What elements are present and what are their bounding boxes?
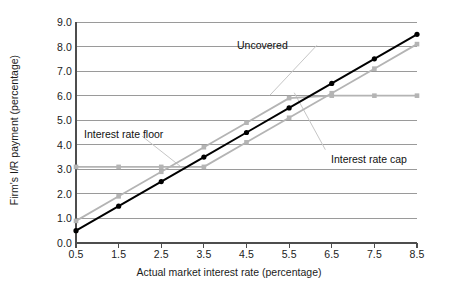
data-point-interest-rate-floor	[287, 115, 292, 120]
data-point-interest-rate-cap	[159, 169, 164, 174]
leader-line-floor	[142, 136, 180, 166]
leader-line-uncovered	[270, 45, 317, 95]
data-point-interest-rate-floor	[159, 165, 164, 170]
data-point-interest-rate-floor	[415, 42, 420, 47]
data-point-interest-rate-floor	[74, 165, 79, 170]
annotation-uncovered: Uncovered	[237, 40, 288, 51]
data-point-uncovered	[159, 179, 164, 184]
annotation-interest-rate-cap: Interest rate cap	[331, 154, 407, 165]
data-point-uncovered	[201, 154, 206, 159]
data-point-interest-rate-cap	[74, 219, 79, 224]
data-point-interest-rate-cap	[287, 96, 292, 101]
data-point-interest-rate-floor	[116, 165, 121, 170]
data-point-interest-rate-cap	[244, 120, 249, 125]
x-axis-title: Actual market interest rate (percentage)	[0, 266, 458, 278]
data-point-uncovered	[116, 204, 121, 209]
data-point-uncovered	[287, 105, 292, 110]
chart-plot	[0, 0, 458, 294]
data-point-interest-rate-floor	[372, 66, 377, 71]
data-point-uncovered	[244, 130, 249, 135]
data-point-interest-rate-cap	[415, 93, 420, 98]
series-line-interest-rate-floor	[76, 44, 417, 167]
data-point-interest-rate-floor	[202, 165, 207, 170]
data-point-uncovered	[372, 56, 377, 61]
data-point-uncovered	[414, 32, 419, 37]
data-point-interest-rate-floor	[244, 140, 249, 145]
data-point-interest-rate-cap	[372, 93, 377, 98]
data-point-uncovered	[73, 228, 78, 233]
data-point-interest-rate-cap	[202, 145, 207, 150]
chart-container: 0.01.02.03.04.05.06.07.08.09.0 0.51.52.5…	[0, 0, 458, 294]
data-point-interest-rate-floor	[329, 91, 334, 96]
y-axis-title: Firm's I/R payment (percentage)	[8, 30, 20, 230]
annotation-interest-rate-floor: Interest rate floor	[84, 129, 163, 140]
data-point-uncovered	[329, 81, 334, 86]
data-point-interest-rate-cap	[116, 194, 121, 199]
